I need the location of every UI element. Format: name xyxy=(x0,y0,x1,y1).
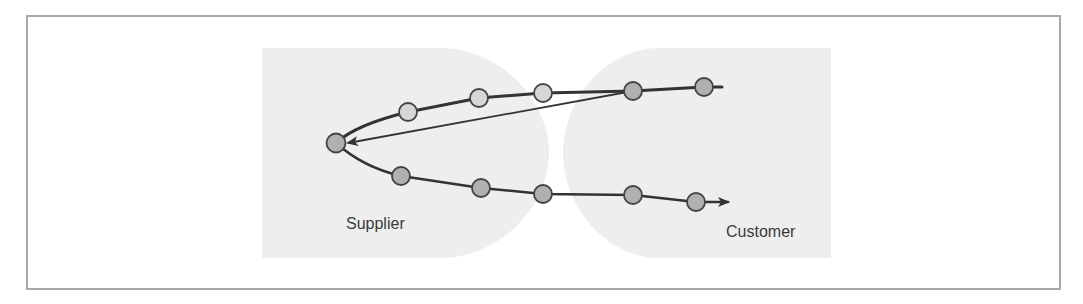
node-lower-5 xyxy=(687,193,705,211)
node-upper-5 xyxy=(399,103,417,121)
node-upper-2 xyxy=(624,82,642,100)
supply-chain-loop-diagram xyxy=(0,0,1083,304)
supplier-region xyxy=(262,48,549,258)
customer-label: Customer xyxy=(726,224,795,240)
node-upper-4 xyxy=(470,89,488,107)
node-apex xyxy=(327,134,346,153)
node-lower-2 xyxy=(472,179,490,197)
node-lower-3 xyxy=(534,185,552,203)
supplier-label: Supplier xyxy=(346,216,405,232)
node-lower-1 xyxy=(392,167,410,185)
node-lower-4 xyxy=(624,186,642,204)
node-upper-1 xyxy=(695,78,713,96)
node-upper-3 xyxy=(534,84,552,102)
